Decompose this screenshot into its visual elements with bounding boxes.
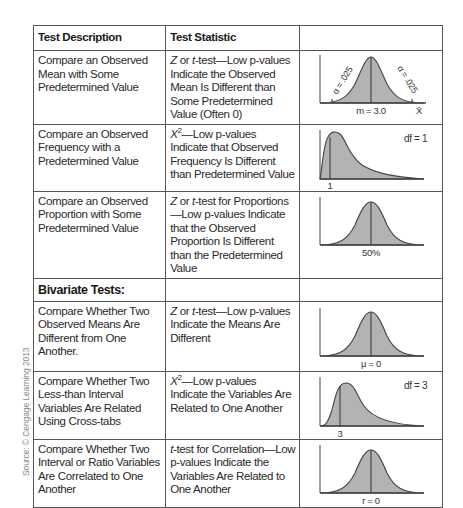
statistical-tests-table: Test Description Test Statistic Compare … [33, 25, 443, 508]
normal-curve: r = 0 [300, 440, 436, 507]
test-description: Compare Whether Two Less-than Interval V… [34, 371, 166, 439]
marker-label: 1 [328, 180, 333, 191]
normal-curve: μ = 0 [300, 302, 436, 371]
empty-cell [166, 278, 300, 301]
stat-text: —Low p-values Indicate that Observed Fre… [170, 128, 294, 181]
center-label: μ = 0 [361, 358, 381, 369]
empty-cell [300, 278, 443, 301]
header-test-description: Test Description [34, 26, 166, 51]
test-description: Compare an Observed Mean with Some Prede… [34, 51, 166, 125]
df-label: df = 1 [404, 133, 428, 144]
distribution-chart-normal: r = 0 [300, 439, 443, 507]
axis-label: X̄ [416, 105, 423, 116]
distribution-chart-two-tailed: α = .025 α = .025 m = 3.0 X̄ [300, 51, 443, 125]
table-row: Compare Whether Two Interval or Ratio Va… [34, 439, 443, 507]
distribution-chart-normal: 50% [300, 191, 443, 278]
stat-symbol: Z [170, 54, 177, 66]
table-row: Compare Whether Two Less-than Interval V… [34, 371, 443, 439]
test-description: Compare an Observed Proportion with Some… [34, 191, 166, 278]
table-row: Compare an Observed Mean with Some Prede… [34, 51, 443, 125]
test-statistic: X2—Low p-values Indicate the Variables A… [166, 371, 300, 439]
test-statistic: Z or t-test for Proportions—Low p-values… [166, 191, 300, 278]
distribution-chart-normal: μ = 0 [300, 301, 443, 371]
test-statistic: Z or t-test—Low p-values Indicate the Ob… [166, 51, 300, 125]
normal-curve: 50% [300, 192, 436, 259]
right-tail-label: α = .025 [396, 64, 421, 95]
stat-text: -test for Correlation—Low p-values Indic… [170, 443, 295, 496]
section-label: Bivariate Tests: [34, 278, 166, 301]
test-description: Compare Whether Two Interval or Ratio Va… [34, 439, 166, 507]
distribution-chart-chi-square: 1 df = 1 [300, 124, 443, 191]
marker-label: 3 [338, 428, 343, 439]
stat-or: or [177, 54, 192, 66]
header-test-statistic: Test Statistic [166, 26, 300, 51]
stat-or: or [177, 305, 192, 317]
df-label: df = 3 [404, 380, 428, 391]
chi-square-curve: 1 df = 1 [300, 125, 436, 191]
table-row: Compare an Observed Frequency with a Pre… [34, 124, 443, 191]
stat-or: or [177, 195, 192, 207]
center-label: 50% [362, 247, 381, 258]
test-statistic: t-test for Correlation—Low p-values Indi… [166, 439, 300, 507]
chi-square-curve: 3 df = 3 [300, 372, 436, 439]
source-note: Source: © Cengage Learning 2013 [21, 348, 31, 476]
section-header-row: Bivariate Tests: [34, 278, 443, 301]
header-row: Test Description Test Statistic [34, 26, 443, 51]
center-label: m = 3.0 [357, 105, 387, 116]
stat-text: —Low p-values Indicate the Variables Are… [170, 375, 291, 414]
stat-symbol: Z [170, 195, 177, 207]
test-description: Compare Whether Two Observed Means Are D… [34, 301, 166, 371]
test-statistic: Z or t-test—Low p-values Indicate the Me… [166, 301, 300, 371]
center-label: r = 0 [363, 495, 381, 506]
distribution-chart-chi-square: 3 df = 3 [300, 371, 443, 439]
stat-symbol: Z [170, 305, 177, 317]
header-chart [300, 26, 443, 51]
table-row: Compare an Observed Proportion with Some… [34, 191, 443, 278]
test-statistic: X2—Low p-values Indicate that Observed F… [166, 124, 300, 191]
test-description: Compare an Observed Frequency with a Pre… [34, 124, 166, 191]
normal-two-tailed-curve: α = .025 α = .025 m = 3.0 X̄ [300, 51, 436, 118]
table-row: Compare Whether Two Observed Means Are D… [34, 301, 443, 371]
